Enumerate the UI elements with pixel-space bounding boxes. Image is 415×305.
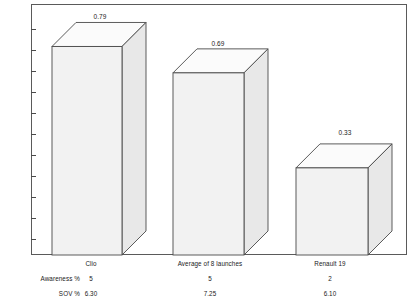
bar-value-label-2: 0.33 <box>323 129 367 136</box>
category-label-renault-19: Renault 19 <box>292 256 368 271</box>
awareness-value-renault-19: 2 <box>292 271 368 286</box>
bar-value-label-1: 0.69 <box>196 40 240 47</box>
y-axis-tick <box>31 92 36 93</box>
y-axis <box>31 4 37 256</box>
y-axis-tick <box>31 134 36 135</box>
y-axis-tick <box>31 239 36 240</box>
y-axis-tick <box>31 155 36 156</box>
y-axis-tick <box>31 197 36 198</box>
y-axis-tick <box>31 71 36 72</box>
category-label-clio: Clio <box>52 256 130 271</box>
sov-value-average: 7.25 <box>165 286 255 301</box>
chart-root: 0.79 0.69 0.33 Clio Average of 8 launche… <box>0 0 415 305</box>
y-axis-tick <box>31 176 36 177</box>
sov-value-renault-19: 6.10 <box>292 286 368 301</box>
table-row-awareness: Awareness % 5 5 2 <box>0 271 415 286</box>
sov-value-clio: 6.30 <box>52 286 130 301</box>
data-table: Clio Average of 8 launches Renault 19 Aw… <box>0 256 415 301</box>
awareness-value-clio: 5 <box>52 271 130 286</box>
awareness-value-average: 5 <box>165 271 255 286</box>
y-axis-tick <box>31 29 36 30</box>
y-axis-tick <box>31 113 36 114</box>
category-label-average: Average of 8 launches <box>165 256 255 271</box>
bar-value-label-0: 0.79 <box>78 13 122 20</box>
table-row-sov: SOV % 6.30 7.25 6.10 <box>0 286 415 301</box>
y-axis-tick <box>31 50 36 51</box>
category-label-row: Clio Average of 8 launches Renault 19 <box>0 256 415 271</box>
y-axis-tick <box>31 218 36 219</box>
